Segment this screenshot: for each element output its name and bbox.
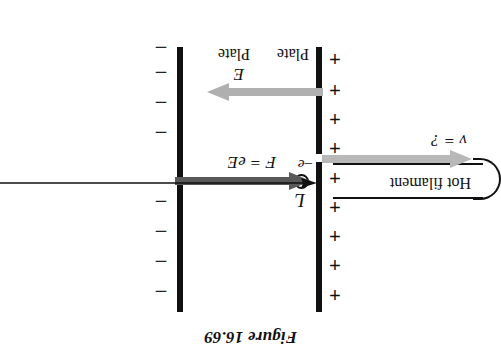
charge-plus-9: + [327, 49, 343, 69]
distance-arrow [0, 177, 317, 189]
charge-plus-2: + [327, 255, 343, 275]
charge-plus-4: + [327, 197, 343, 217]
field-arrow-label: E [234, 64, 244, 84]
charge-minus-2: – [153, 254, 169, 273]
charge-minus-1: – [153, 284, 169, 303]
field-arrow [207, 83, 323, 101]
velocity-arrow [322, 150, 472, 168]
figure-page: Figure 16.69 + + + + + + + + + Plate – –… [0, 0, 501, 359]
plate-right-label: Plate [218, 45, 250, 63]
charge-minus-3: – [153, 224, 169, 243]
distance-label: L [294, 189, 305, 211]
charge-minus-8: – [153, 40, 169, 59]
charge-plus-8: + [327, 80, 343, 100]
filament-line-top [333, 197, 483, 199]
charge-plus-3: + [327, 226, 343, 246]
velocity-arrow-label: v = ? [431, 130, 467, 150]
hot-filament-label: Hot filament [390, 174, 471, 192]
charge-minus-6: – [153, 95, 169, 114]
charge-plus-7: + [327, 109, 343, 129]
plate-left-label: Plate [277, 45, 309, 63]
charge-minus-4: – [153, 194, 169, 213]
charge-minus-5: – [153, 125, 169, 144]
force-arrow-label: F = eE [228, 152, 276, 172]
charge-plus-1: + [327, 285, 343, 305]
filament-tip-curve [473, 158, 501, 200]
figure-title: Figure 16.69 [0, 327, 501, 347]
rotated-figure-canvas: Figure 16.69 + + + + + + + + + Plate – –… [0, 0, 501, 359]
charge-minus-7: – [153, 65, 169, 84]
